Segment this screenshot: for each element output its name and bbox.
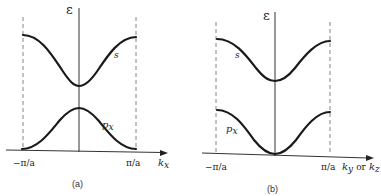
right-zone-tick: π/a <box>126 158 141 168</box>
left-zone-tick: −π/a <box>13 158 35 168</box>
panel-a: ε s px −π/a π/a kx (a) <box>6 2 169 189</box>
right-zone-tick: π/a <box>321 162 336 172</box>
energy-label: ε <box>66 2 73 17</box>
caption-b: (b) <box>267 184 278 194</box>
kx-axis-label: kx <box>158 157 169 170</box>
k-axis <box>202 153 368 158</box>
caption-a: (a) <box>72 179 83 189</box>
s-band-curve <box>217 39 330 81</box>
k-axis <box>6 150 163 153</box>
band-structure-figure: ε s px −π/a π/a kx (a) ε s px −π/a π/a k… <box>0 0 381 196</box>
panel-b: ε s px −π/a π/a kyorkz (b) <box>202 8 380 194</box>
px-band-label: px <box>102 119 113 132</box>
ky-kz-axis-label: kyorkz <box>342 161 380 174</box>
s-band-label: s <box>235 50 240 60</box>
energy-label: ε <box>263 8 270 23</box>
s-band-label: s <box>114 50 119 60</box>
px-band-label: px <box>226 123 237 136</box>
left-zone-tick: −π/a <box>205 162 227 172</box>
k-axis-arrow-icon <box>160 150 168 156</box>
